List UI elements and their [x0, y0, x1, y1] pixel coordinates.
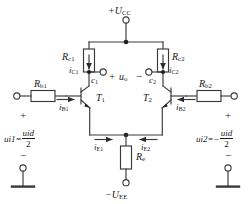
input-left-denominator: 2 — [22, 139, 36, 149]
ic1-label: iC1 — [69, 66, 79, 75]
supply-top-terminal — [123, 17, 129, 23]
supply-bottom-terminal — [123, 180, 129, 186]
circuit-diagram: +UCC −UEE Rc1 Rc2 iC1 iC2 c1 c2 + uo − T… — [0, 0, 251, 204]
ground-left-terminal — [20, 165, 26, 171]
input-right-equals: =− — [208, 134, 220, 144]
rb1-label: Rb1 — [34, 79, 47, 90]
input-right-name: ui2 — [196, 134, 208, 144]
rb1-body — [31, 91, 55, 102]
ib1-label: iB1 — [59, 103, 69, 112]
rc1-label: Rc1 — [62, 52, 75, 63]
ground-right-terminal — [225, 165, 231, 171]
input-right-denominator: 2 — [220, 139, 234, 149]
input-right-plus-sign: + — [225, 110, 231, 121]
t2-emitter-arrow — [162, 104, 168, 108]
input-right-minus-sign: − — [225, 150, 231, 161]
input-left-fraction: uid 2 — [22, 128, 36, 149]
t2-label: T2 — [143, 93, 152, 104]
node-c2-label: c2 — [149, 76, 156, 85]
t1-collector-lead — [81, 86, 89, 92]
ie1-label: iE1 — [94, 143, 103, 152]
c1-junction-dot — [87, 70, 91, 74]
output-voltage-label: uo — [119, 72, 127, 83]
rc2-label: Rc2 — [172, 52, 185, 63]
supply-negative-label: −UEE — [105, 190, 127, 201]
input-right-fraction: uid 2 — [220, 128, 234, 149]
output-minus-sign: − — [136, 71, 142, 82]
t2-collector-lead — [163, 86, 171, 92]
input-left-terminal — [14, 93, 20, 99]
input-right-expression: ui2 =− uid 2 — [196, 128, 233, 149]
ib2-label: iB2 — [176, 103, 186, 112]
c2-junction-dot — [161, 70, 165, 74]
rb2-body — [197, 91, 221, 102]
supply-positive-label: +UCC — [108, 6, 131, 17]
ic2-label: iC2 — [169, 66, 179, 75]
input-left-expression: ui1 = uid 2 — [4, 128, 35, 149]
rb2-label: Rb2 — [199, 79, 212, 90]
input-left-minus-sign: − — [20, 150, 26, 161]
re-label: Re — [136, 152, 145, 163]
circuit-schematic-svg — [0, 0, 251, 204]
output-left-terminal — [100, 69, 106, 75]
node-c1-label: c1 — [91, 76, 98, 85]
t1-label: T1 — [96, 93, 105, 104]
input-right-terminal — [231, 93, 237, 99]
input-left-numerator: uid — [22, 128, 36, 139]
input-left-plus-sign: + — [20, 110, 26, 121]
output-plus-sign: + — [109, 71, 115, 82]
t1-emitter-arrow — [84, 104, 90, 108]
input-right-numerator: uid — [220, 128, 234, 139]
top-rail-junction-dot — [124, 40, 129, 45]
re-body — [121, 146, 132, 169]
input-left-name: ui1 — [4, 134, 16, 144]
